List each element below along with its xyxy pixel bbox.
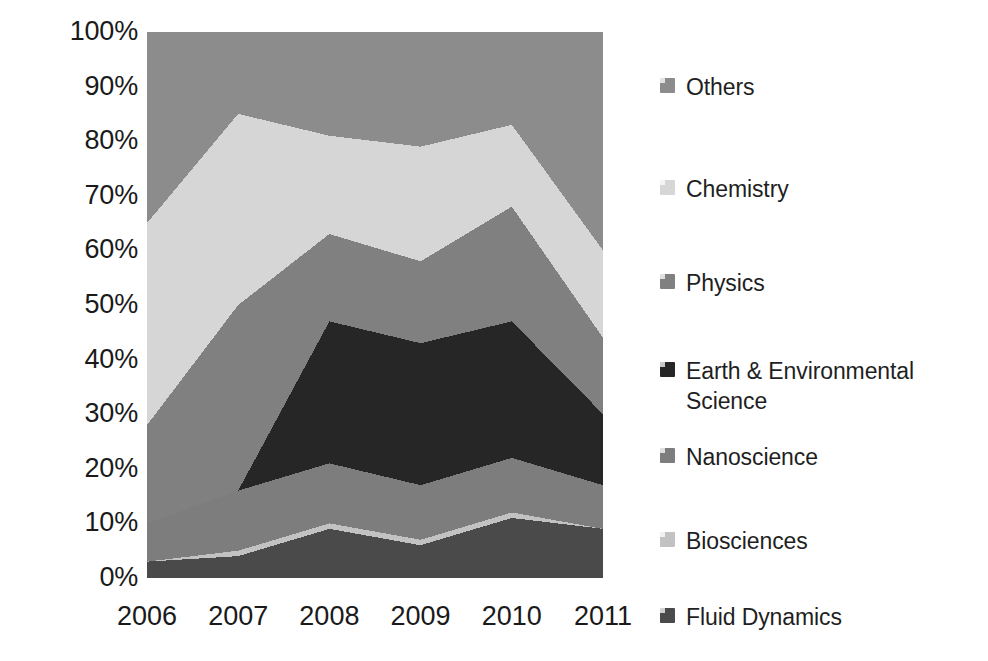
x-axis: 200620072008200920102011: [100, 600, 660, 644]
legend-item-others[interactable]: Others: [660, 72, 970, 102]
x-axis-tick-label: 2011: [560, 600, 646, 632]
legend-item-label: Others: [686, 72, 754, 102]
y-axis-tick-label: 60%: [85, 236, 138, 263]
legend-item-label: Fluid Dynamics: [686, 602, 842, 632]
y-axis-tick-label: 80%: [85, 127, 138, 154]
legend-item-physics[interactable]: Physics: [660, 268, 970, 298]
legend-item-label: Chemistry: [686, 174, 789, 204]
stacked-area-svg: [147, 32, 603, 578]
y-axis-tick-label: 90%: [85, 73, 138, 100]
legend-item-label: Biosciences: [686, 526, 808, 556]
x-axis-tick-label: 2008: [286, 600, 372, 632]
legend-swatch-icon: [660, 78, 675, 93]
legend-item-chemistry[interactable]: Chemistry: [660, 174, 970, 204]
y-axis-tick-label: 0%: [99, 564, 138, 591]
y-axis-tick-label: 100%: [70, 18, 138, 45]
chart-page: 100%90%80%70%60%50%40%30%20%10%0% 200620…: [0, 0, 988, 661]
y-axis-tick-label: 70%: [85, 182, 138, 209]
legend-item-nanoscience[interactable]: Nanoscience: [660, 442, 970, 472]
legend-swatch-icon: [660, 362, 675, 377]
legend-swatch-icon: [660, 608, 675, 623]
legend-swatch-icon: [660, 274, 675, 289]
legend-item-earth-environmental-science[interactable]: Earth & Environmental Science: [660, 356, 970, 416]
legend-swatch-icon: [660, 448, 675, 463]
chart-legend: OthersChemistryPhysicsEarth & Environmen…: [660, 46, 980, 606]
y-axis-tick-label: 10%: [85, 509, 138, 536]
y-axis-tick-label: 50%: [85, 291, 138, 318]
legend-item-biosciences[interactable]: Biosciences: [660, 526, 970, 556]
legend-item-fluid-dynamics[interactable]: Fluid Dynamics: [660, 602, 970, 632]
legend-swatch-icon: [660, 180, 675, 195]
y-axis-tick-label: 30%: [85, 400, 138, 427]
y-axis: 100%90%80%70%60%50%40%30%20%10%0%: [34, 20, 138, 600]
y-axis-tick-label: 20%: [85, 455, 138, 482]
plot-area: [147, 32, 603, 578]
x-axis-tick-label: 2010: [469, 600, 555, 632]
legend-item-label: Earth & Environmental Science: [686, 356, 970, 416]
legend-item-label: Physics: [686, 268, 765, 298]
legend-swatch-icon: [660, 532, 675, 547]
x-axis-tick-label: 2007: [195, 600, 281, 632]
legend-item-label: Nanoscience: [686, 442, 818, 472]
y-axis-tick-label: 40%: [85, 346, 138, 373]
x-axis-tick-label: 2009: [378, 600, 464, 632]
x-axis-tick-label: 2006: [104, 600, 190, 632]
